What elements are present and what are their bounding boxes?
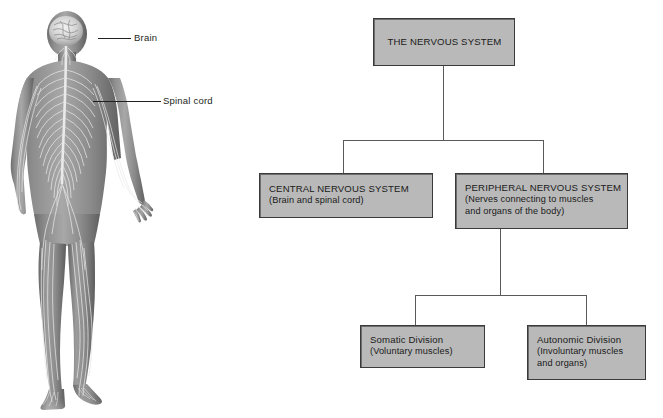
node-peripheral-nervous-system-subtitle-line2: and organs of the body)	[465, 206, 619, 218]
node-central-nervous-system-subtitle: (Brain and spinal cord)	[269, 195, 424, 207]
node-autonomic-division-subtitle-line1: (Involuntary muscles	[537, 346, 637, 358]
node-autonomic-division[interactable]: Autonomic Division (Involuntary muscles …	[527, 325, 646, 380]
connector-level1-bar	[343, 140, 544, 141]
connector-to-cns	[343, 140, 344, 173]
connector-root-down	[443, 66, 444, 140]
node-central-nervous-system[interactable]: CENTRAL NERVOUS SYSTEM (Brain and spinal…	[259, 173, 433, 218]
connector-to-autonomic	[586, 295, 587, 325]
connector-pns-down	[500, 228, 501, 295]
node-central-nervous-system-title: CENTRAL NERVOUS SYSTEM	[269, 183, 424, 195]
node-autonomic-division-title: Autonomic Division	[537, 334, 637, 346]
node-peripheral-nervous-system[interactable]: PERIPHERAL NERVOUS SYSTEM (Nerves connec…	[455, 173, 628, 229]
node-somatic-division[interactable]: Somatic Division (Voluntary muscles)	[360, 325, 485, 368]
nervous-system-diagram-page: Brain Spinal cord THE NERVOUS SYSTEM CEN…	[0, 0, 663, 418]
node-autonomic-division-subtitle-line2: and organs)	[537, 358, 637, 370]
node-peripheral-nervous-system-subtitle-line1: (Nerves connecting to muscles	[465, 194, 619, 206]
connector-level2-bar	[415, 295, 586, 296]
node-peripheral-nervous-system-title: PERIPHERAL NERVOUS SYSTEM	[465, 182, 619, 194]
nervous-system-flowchart: THE NERVOUS SYSTEM CENTRAL NERVOUS SYSTE…	[0, 0, 663, 418]
connector-to-pns	[543, 140, 544, 173]
node-somatic-division-subtitle: (Voluntary muscles)	[370, 346, 476, 358]
node-the-nervous-system[interactable]: THE NERVOUS SYSTEM	[373, 18, 515, 66]
node-the-nervous-system-title: THE NERVOUS SYSTEM	[388, 36, 502, 48]
node-somatic-division-title: Somatic Division	[370, 334, 476, 346]
connector-to-somatic	[415, 295, 416, 325]
